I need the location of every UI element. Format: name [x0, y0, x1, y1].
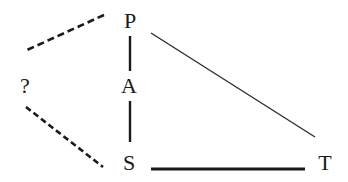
edge-p-question-dashed: [27, 15, 104, 50]
node-label-question: ?: [20, 73, 30, 98]
node-label-p: P: [124, 8, 136, 33]
diagram-canvas: P A S T ?: [0, 0, 348, 182]
node-label-t: T: [318, 150, 332, 175]
edge-p-t: [151, 33, 315, 137]
node-label-s: S: [123, 150, 135, 175]
edge-question-s-dashed: [26, 107, 103, 167]
node-label-a: A: [121, 73, 137, 98]
